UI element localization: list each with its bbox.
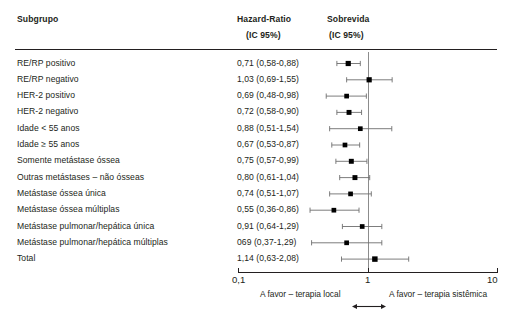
row-value: 0,75 (0,57-0,99) [237,155,299,165]
row-value: 0,71 (0,58-0,88) [237,58,299,68]
x-axis-label-right: 10 [487,274,498,285]
x-axis-tick-left [238,268,239,273]
point-estimate-marker [332,208,337,213]
row-label: Metástase pulmonar/hepática múltiplas [17,237,168,247]
point-estimate-marker [347,110,352,115]
point-estimate-marker [352,175,357,180]
row-label: RE/RP positivo [17,58,75,68]
x-axis-tick-right [497,268,498,273]
column-header-hazard-ratio: Hazard-Ratio [237,14,291,24]
row-value: 0,72 (0,58-0,90) [237,106,299,116]
row-value: 1,03 (0,69-1,55) [237,74,299,84]
point-estimate-marker [360,224,365,229]
point-estimate-marker [343,143,348,148]
row-label: Metástase óssea múltiplas [17,204,120,214]
header-divider [15,49,497,50]
row-value: 0,67 (0,53-0,87) [237,139,299,149]
row-value: 0,88 (0,51-1,54) [237,123,299,133]
point-estimate-marker [349,159,354,164]
row-label: RE/RP negativo [17,74,79,84]
row-label: HER-2 positivo [17,90,75,100]
axis-note-favors-systemic: A favor – terapia sistêmica [389,289,487,299]
row-label: HER-2 negativo [17,106,78,116]
reference-line [368,52,369,273]
column-header-survival-ci: (IC 95%) [329,30,364,40]
row-label: Metástase óssea única [17,188,106,198]
row-value: 0,55 (0,36-0,86) [237,204,299,214]
point-estimate-marker [372,256,377,261]
x-axis-label-left: 0,1 [232,274,245,285]
column-header-hazard-ratio-ci: (IC 95%) [246,30,281,40]
row-value: 0,74 (0,51-1,07) [237,188,299,198]
direction-arrow-icon [352,297,386,306]
x-axis-tick-mid [368,268,369,273]
x-axis-label-mid: 1 [365,274,370,285]
row-label: Idade ≥ 55 anos [17,139,79,149]
column-header-survival: Sobrevida [327,14,369,24]
row-value: 0,80 (0,61-1,04) [237,172,299,182]
point-estimate-marker [358,126,363,131]
row-value: 1,14 (0,63-2,08) [237,253,299,263]
row-label: Total [17,253,35,263]
point-estimate-marker [344,240,349,245]
point-estimate-marker [344,94,349,99]
row-value: 0,91 (0,64-1,29) [237,221,299,231]
row-label: Metástase pulmonar/hepática única [17,221,154,231]
point-estimate-marker [346,61,351,66]
row-value: 0,69 (0,48-0,98) [237,90,299,100]
row-label: Outras metástases – não ósseas [17,172,144,182]
column-header-subgroup: Subgrupo [17,14,58,24]
axis-note-favors-local: A favor – terapia local [260,289,341,299]
row-value: 069 (0,37-1,29) [237,237,297,247]
forest-plot: Subgrupo Hazard-Ratio (IC 95%) Sobrevida… [0,0,510,314]
point-estimate-marker [348,192,353,197]
row-label: Idade < 55 anos [17,123,80,133]
row-label: Somente metástase óssea [17,155,120,165]
